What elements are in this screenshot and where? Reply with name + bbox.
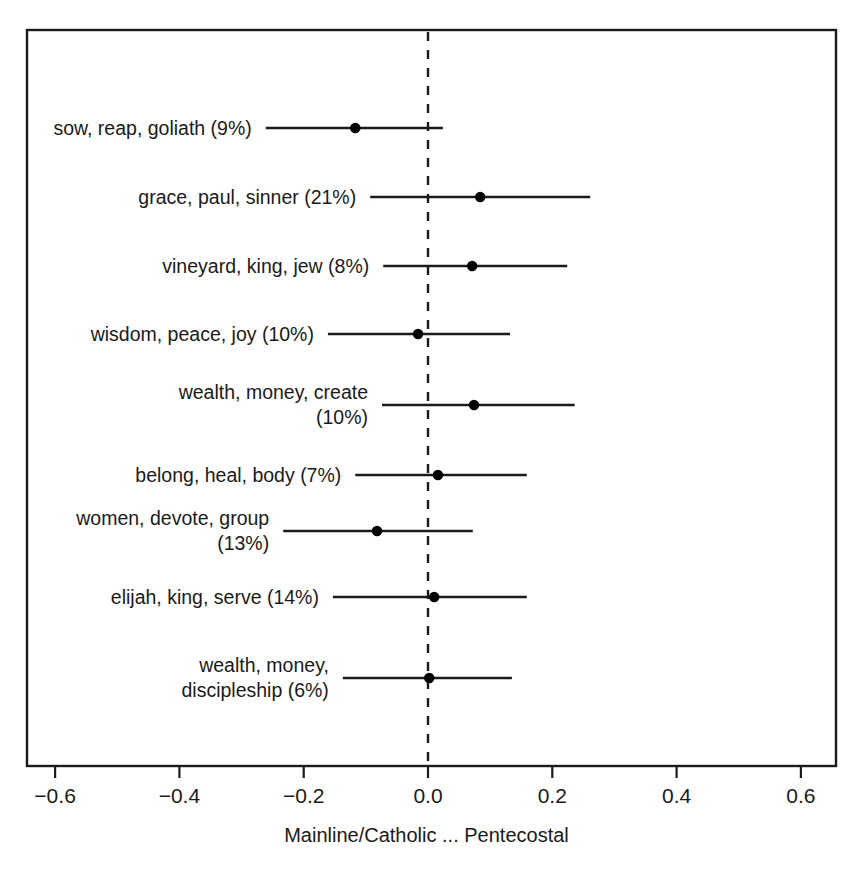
category-label: belong, heal, body (7%)	[135, 463, 341, 488]
estimate-point	[433, 470, 443, 480]
x-tick-label: −0.6	[34, 784, 75, 808]
category-label: wisdom, peace, joy (10%)	[91, 322, 314, 347]
x-tick-label: −0.4	[159, 784, 200, 808]
category-label: wealth, money, discipleship (6%)	[181, 653, 328, 703]
estimate-point	[424, 673, 434, 683]
x-tick-label: −0.2	[283, 784, 324, 808]
x-tick-label: 0.0	[413, 784, 442, 808]
x-tick-label: 0.6	[786, 784, 815, 808]
estimate-point	[350, 123, 360, 133]
category-label: wealth, money, create (10%)	[179, 380, 368, 430]
category-label: women, devote, group (13%)	[76, 506, 269, 556]
category-label: vineyard, king, jew (8%)	[162, 254, 369, 279]
category-label: grace, paul, sinner (21%)	[138, 185, 356, 210]
estimate-point	[429, 592, 439, 602]
estimate-point	[413, 329, 423, 339]
category-label: elijah, king, serve (14%)	[111, 585, 319, 610]
coefficient-plot: −0.6−0.4−0.20.00.20.40.6 sow, reap, goli…	[0, 0, 853, 879]
estimate-point	[469, 400, 479, 410]
category-label: sow, reap, goliath (9%)	[53, 116, 251, 141]
axis-ticks	[55, 766, 801, 778]
estimate-point	[372, 526, 382, 536]
estimate-point	[467, 261, 477, 271]
x-tick-label: 0.4	[662, 784, 691, 808]
x-axis-title: Mainline/Catholic ... Pentecostal	[0, 824, 853, 847]
x-tick-label: 0.2	[538, 784, 567, 808]
estimate-point	[475, 192, 485, 202]
